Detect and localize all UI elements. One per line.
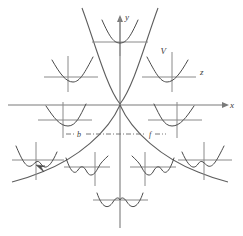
inset-mid-right — [148, 102, 202, 138]
bifurcation-diagram: V z x y — [0, 0, 243, 236]
inset-mid-right-potential — [154, 104, 194, 126]
main-axes — [8, 15, 229, 228]
inset-lower-left-arrow — [36, 165, 45, 172]
inset-top — [92, 18, 148, 56]
inset-mid-left-potential — [46, 104, 86, 126]
inset-mid-left — [38, 102, 92, 138]
y-axis-label: y — [124, 12, 129, 22]
inset-lower-right-potential — [182, 146, 224, 167]
inset-upper-left-potential — [52, 57, 93, 82]
annotation-label-f: f — [149, 130, 153, 139]
inset-upper-right: V z — [142, 46, 204, 92]
inset-upper-left — [44, 56, 98, 92]
inset-axis-label-horizontal: z — [199, 67, 204, 77]
curve-lower-right — [120, 105, 228, 182]
curve-lower-left — [12, 105, 120, 182]
x-axis-label: x — [229, 100, 234, 110]
inset-axis-label-vertical: V — [161, 46, 168, 56]
annotation-label-b: b — [77, 130, 81, 139]
x-axis-arrowhead — [222, 102, 229, 108]
inset-upper-right-potential — [147, 57, 188, 82]
inset-inner-right-potential — [132, 156, 174, 175]
figure-root: V z x y — [0, 0, 243, 236]
inset-lower-left — [12, 142, 64, 180]
inset-inner-left-potential — [66, 156, 108, 175]
